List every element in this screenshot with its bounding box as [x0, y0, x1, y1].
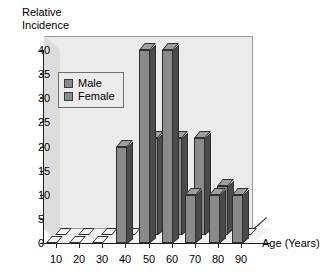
legend-item-male: Male	[64, 77, 115, 90]
x-axis-tick-label: 90	[235, 254, 247, 265]
bar-front-face	[209, 195, 220, 243]
legend-swatch-male	[64, 79, 73, 88]
x-axis-tick-label: 40	[119, 254, 131, 265]
legend-item-female: Female	[64, 90, 115, 103]
legend: Male Female	[58, 72, 124, 108]
bar-side-face	[150, 45, 156, 243]
y-axis-tick-mark	[40, 122, 44, 123]
x-axis-tick-mark	[149, 243, 150, 248]
bar-male-50	[139, 50, 150, 243]
x-axis-tick-mark	[102, 243, 103, 248]
legend-swatch-female	[64, 92, 73, 101]
y-axis-title-line1: Relative	[22, 6, 62, 18]
x-axis-tick-mark	[195, 243, 196, 248]
bar-side-face	[127, 141, 133, 243]
bar-male-60	[162, 50, 173, 243]
bar-front-face	[139, 50, 150, 243]
x-axis-tick-label: 50	[143, 254, 155, 265]
y-axis-title-line2: Incidence	[22, 19, 69, 31]
bar-side-face	[243, 190, 249, 243]
bar-male-90	[232, 195, 243, 243]
y-axis-tick-mark	[40, 98, 44, 99]
x-axis-tick-label: 70	[189, 254, 201, 265]
bar-front-face	[232, 195, 243, 243]
legend-label-male: Male	[78, 78, 102, 89]
x-axis-tick-label: 60	[166, 254, 178, 265]
x-axis-title: Age (Years)	[262, 237, 320, 249]
x-axis-tick-mark	[79, 243, 80, 248]
y-axis-tick-mark	[40, 171, 44, 172]
x-axis-tick-mark	[218, 243, 219, 248]
y-axis-tick-mark	[40, 243, 44, 244]
x-axis-tick-mark	[125, 243, 126, 248]
bar-side-face	[173, 45, 179, 243]
x-axis-tick-mark	[172, 243, 173, 248]
x-axis-tick-label: 80	[212, 254, 224, 265]
bar-male-70	[185, 195, 196, 243]
bar-male-40	[116, 147, 127, 244]
bar-side-face	[196, 190, 202, 243]
x-axis-tick-mark	[241, 243, 242, 248]
y-axis-tick-mark	[40, 219, 44, 220]
x-axis-tick-label: 10	[50, 254, 62, 265]
y-axis-tick-mark	[40, 74, 44, 75]
x-axis-tick-label: 20	[73, 254, 85, 265]
legend-label-female: Female	[78, 91, 115, 102]
bar-front-face	[162, 50, 173, 243]
y-axis-title: RelativeIncidence	[22, 6, 69, 32]
y-axis-tick-mark	[40, 195, 44, 196]
bar-side-face	[220, 190, 226, 243]
bar-male-80	[209, 195, 220, 243]
bar-chart: RelativeIncidence 0510152025303540 10203…	[0, 0, 334, 279]
y-axis-tick-mark	[40, 147, 44, 148]
bar-front-face	[116, 147, 127, 244]
bar-front-face	[185, 195, 196, 243]
x-axis-tick-mark	[56, 243, 57, 248]
x-axis-tick-label: 30	[96, 254, 108, 265]
y-axis-tick-mark	[40, 50, 44, 51]
